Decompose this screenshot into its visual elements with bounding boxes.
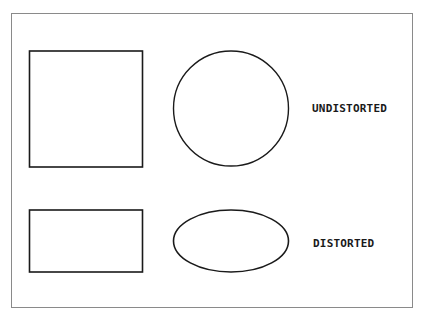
undistorted-label: UNDISTORTED bbox=[312, 102, 387, 115]
distorted-label: DISTORTED bbox=[313, 237, 375, 250]
distortion-diagram: UNDISTORTED DISTORTED bbox=[0, 0, 422, 316]
undistorted-circle bbox=[174, 51, 289, 166]
frame-border bbox=[12, 14, 413, 308]
distorted-rectangle bbox=[30, 210, 143, 272]
undistorted-square bbox=[30, 51, 143, 167]
distorted-ellipse bbox=[174, 210, 289, 272]
